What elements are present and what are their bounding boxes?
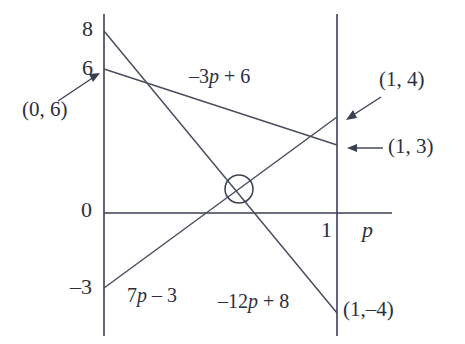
equation-label-minus12p-plus8: –12p + 8 (218, 291, 289, 311)
annotation-arrow-1-4 (346, 97, 381, 120)
point-label-1-minus4: (1,–4) (343, 299, 394, 320)
point-label-1-3: (1, 3) (388, 136, 434, 157)
y-tick-label-0: 0 (81, 199, 92, 221)
y-tick-label-8: 8 (82, 18, 93, 40)
line-7p-minus3 (104, 117, 337, 288)
x-axis-label-p: p (362, 219, 373, 241)
equation-label-7p-minus3: 7p – 3 (127, 285, 177, 305)
point-label-0-6: (0, 6) (22, 99, 68, 120)
point-label-1-4: (1, 4) (379, 69, 425, 90)
graph-figure: 8 6 0 –3 1 p –3p + 6 7p – 3 –12p + 8 (0,… (0, 0, 465, 344)
x-tick-label-1: 1 (321, 219, 332, 241)
y-tick-label-minus-3: –3 (70, 276, 92, 298)
y-tick-label-6: 6 (82, 57, 93, 79)
annotation-arrow-1-3 (347, 144, 383, 152)
equation-label-minus3p-plus6: –3p + 6 (189, 66, 250, 86)
